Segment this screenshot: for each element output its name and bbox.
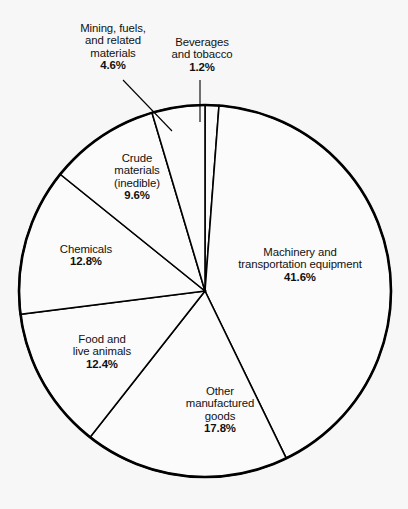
slice-label-other-manufactured-goods: Other manufactured goods 17.8% — [163, 385, 277, 435]
slice-label-crude-materials: Crude materials (inedible) 9.6% — [90, 152, 184, 202]
label-line: goods — [163, 410, 277, 422]
label-line: Food and — [48, 333, 156, 345]
label-line: Chemicals — [30, 243, 142, 255]
slice-label-chemicals: Chemicals 12.8% — [30, 243, 142, 268]
label-line: (inedible) — [90, 177, 184, 189]
label-percent: 1.2% — [150, 61, 254, 73]
label-line: live animals — [48, 345, 156, 357]
pie-chart-figure: Mining, fuels, and related materials 4.6… — [0, 0, 408, 509]
label-line: Machinery and — [216, 246, 384, 258]
label-percent: 12.8% — [30, 255, 142, 267]
slice-label-beverages: Beverages and tobacco 1.2% — [150, 36, 254, 73]
label-line: Beverages — [150, 36, 254, 48]
slice-label-machinery-transportation: Machinery and transportation equipment 4… — [216, 246, 384, 283]
label-percent: 12.4% — [48, 358, 156, 370]
label-line: and tobacco — [150, 48, 254, 60]
label-line: Other — [163, 385, 277, 397]
label-percent: 17.8% — [163, 422, 277, 434]
label-line: manufactured — [163, 397, 277, 409]
label-percent: 9.6% — [90, 189, 184, 201]
slice-label-food-live-animals: Food and live animals 12.4% — [48, 333, 156, 370]
label-line: transportation equipment — [216, 258, 384, 270]
label-line: Crude — [90, 152, 184, 164]
label-line: materials — [90, 164, 184, 176]
label-percent: 41.6% — [216, 271, 384, 283]
label-line: Mining, fuels, — [48, 22, 178, 34]
